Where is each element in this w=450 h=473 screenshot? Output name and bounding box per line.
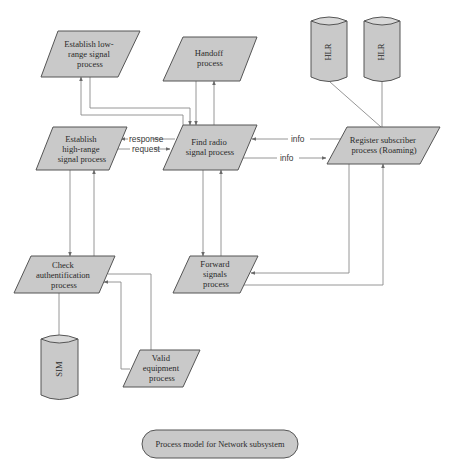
process-model-diagram: response request info info Establish low…	[0, 0, 450, 473]
node-low-range[interactable]: Establish low- range signal process	[41, 31, 140, 77]
node-find-radio-label: Find radio signal process	[186, 137, 235, 157]
diagram-caption-text: Process model for Network subsystem	[156, 440, 285, 449]
datastore-sim-label: SIM	[54, 361, 64, 377]
edges	[59, 77, 383, 369]
edge-low-range-to-find-radio	[90, 77, 190, 125]
node-handoff[interactable]: Handoff process	[163, 37, 257, 81]
node-check-auth[interactable]: Check authentification process	[14, 256, 115, 293]
node-forward-label: Forward signals process	[200, 259, 231, 289]
node-forward[interactable]: Forward signals process	[173, 256, 258, 293]
datastore-hlr-1-label: HLR	[323, 43, 333, 60]
node-high-range[interactable]: Establish high-range signal process	[36, 127, 127, 170]
edge-hlr1-to-register	[330, 82, 381, 127]
edge-label-info-in: info	[291, 134, 305, 144]
node-register[interactable]: Register subscriber process (Roaming)	[327, 127, 440, 164]
edge-label-response: response	[129, 134, 164, 144]
datastore-sim[interactable]: SIM	[41, 335, 78, 400]
edge-check-auth-to-valid-equipment	[108, 274, 151, 350]
node-register-label: Register subscriber process (Roaming)	[350, 135, 418, 155]
diagram-caption: Process model for Network subsystem	[142, 430, 298, 458]
edge-find-radio-to-low-range	[81, 77, 183, 125]
edge-forward-to-register	[243, 164, 383, 285]
node-valid-equipment[interactable]: Valid equipment process	[123, 350, 200, 387]
datastore-hlr-2[interactable]: HLR	[364, 17, 400, 82]
edge-label-info-out: info	[280, 153, 294, 163]
datastore-hlr-1[interactable]: HLR	[311, 17, 347, 82]
node-find-radio[interactable]: Find radio signal process	[163, 125, 257, 170]
datastore-hlr-2-label: HLR	[376, 43, 386, 60]
edge-label-request: request	[132, 144, 161, 154]
edge-register-to-forward	[251, 164, 349, 273]
node-handoff-label: Handoff process	[195, 48, 226, 68]
edge-valid-equipment-to-check-auth	[104, 282, 130, 369]
